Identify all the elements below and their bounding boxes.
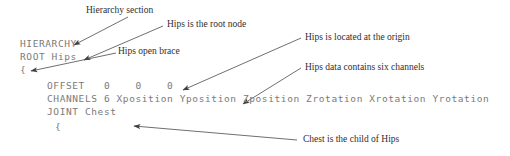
leader-lines-layer	[0, 0, 510, 156]
code-line-offset: OFFSET 0 0 0	[47, 80, 173, 91]
annotation-hierarchy-section: Hierarchy section	[86, 5, 153, 16]
code-line-root-hips: ROOT Hips	[20, 51, 77, 62]
code-line-chest-open-brace: {	[55, 121, 61, 132]
leader-hierarchy-section	[74, 17, 128, 45]
annotation-chest-child-of-hips: Chest is the child of Hips	[303, 134, 399, 145]
annotation-hips-origin: Hips is located at the origin	[305, 32, 410, 43]
annotation-hips-root-node: Hips is the root node	[167, 19, 246, 30]
code-line-joint-chest: JOINT Chest	[47, 106, 117, 117]
code-line-hierarchy: HIERARCHY	[20, 38, 77, 49]
leader-line-group	[31, 17, 301, 140]
leader-chest-child	[134, 126, 297, 140]
code-line-channels: CHANNELS 6 Xposition Yposition Zposition…	[47, 93, 489, 104]
annotation-hips-six-channels: Hips data contains six channels	[305, 62, 424, 73]
leader-hips-origin	[183, 38, 301, 90]
code-line-open-brace: {	[20, 64, 26, 75]
annotation-hips-open-brace: Hips open brace	[118, 46, 180, 57]
bvh-hierarchy-annotated-figure: HIERARCHY ROOT Hips { OFFSET 0 0 0 CHANN…	[0, 0, 510, 156]
